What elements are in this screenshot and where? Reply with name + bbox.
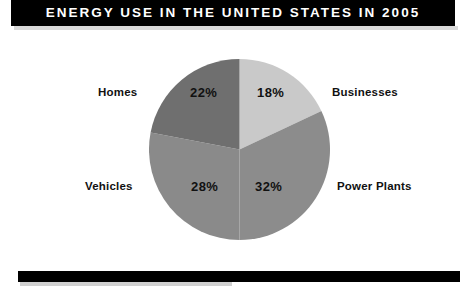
chart-title: ENERGY USE IN THE UNITED STATES IN 2005 xyxy=(11,0,455,26)
pie-chart xyxy=(149,59,330,240)
pie-label-vehicles: Vehicles xyxy=(85,180,133,192)
pie-chart-svg xyxy=(149,59,330,240)
footer-bar-shadow xyxy=(20,282,232,286)
pie-value-homes: 22% xyxy=(190,85,217,100)
pie-label-power-plants: Power Plants xyxy=(337,180,412,192)
pie-value-businesses: 18% xyxy=(257,85,284,100)
pie-value-power-plants: 32% xyxy=(255,179,282,194)
pie-label-homes: Homes xyxy=(98,86,137,98)
pie-label-businesses: Businesses xyxy=(332,86,398,98)
title-bar-shadow xyxy=(14,26,458,30)
energy-use-pie-chart-figure: ENERGY USE IN THE UNITED STATES IN 2005 … xyxy=(0,0,474,289)
pie-value-vehicles: 28% xyxy=(191,179,218,194)
footer-bar xyxy=(18,271,460,282)
